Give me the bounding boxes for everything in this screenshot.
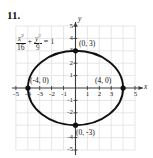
x-tick-label-1: 1	[83, 90, 92, 98]
x-tick-label-neg4: -4	[22, 90, 34, 98]
y-tick-label-4: 4	[62, 34, 73, 42]
point-label-left: (-4, 0)	[30, 76, 49, 85]
x-tick-label-3: 3	[107, 90, 116, 98]
y-tick-label-neg2: -2	[58, 108, 73, 116]
point-label-bottom: (0, -3)	[76, 128, 95, 137]
y-axis-label: y	[78, 14, 81, 23]
x-tick-label-neg3: -3	[34, 90, 46, 98]
point-label-top: (0, 3)	[79, 39, 95, 48]
x-tick-label-5: 5	[131, 90, 140, 98]
y-tick-label-3: 3	[62, 46, 73, 54]
x-tick-label-2: 2	[95, 90, 104, 98]
x-tick-label-neg5: -5	[10, 90, 22, 98]
y-tick-label-5: 5	[62, 22, 73, 30]
point-right	[121, 85, 126, 90]
x-axis-label: x	[144, 82, 147, 91]
point-top	[73, 48, 78, 53]
y-tick-label-1: 1	[62, 71, 73, 79]
point-label-right: (4, 0)	[95, 76, 111, 85]
y-tick-label-neg1: -1	[58, 96, 73, 104]
x-tick-label-neg2: -2	[46, 90, 58, 98]
y-tick-label-2: 2	[62, 59, 73, 67]
y-tick-label-neg4: -4	[58, 133, 73, 141]
y-tick-label-neg5: -5	[58, 145, 73, 153]
